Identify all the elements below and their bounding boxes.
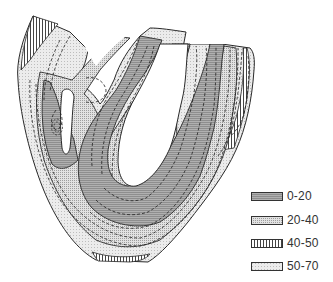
legend-label: 40-50 [287,237,319,250]
legend-item-20-40: 20-40 [251,214,333,226]
legend-label: 50-70 [287,260,319,273]
swatch-0-20 [251,192,283,201]
legend-item-40-50: 40-50 [251,237,333,249]
legend-item-0-20: 0-20 [251,190,333,202]
legend-item-50-70: 50-70 [251,260,333,272]
swatch-50-70 [251,262,283,271]
swatch-20-40 [251,216,283,225]
legend-label: 0-20 [287,190,312,203]
swatch-40-50 [251,239,283,248]
legend-label: 20-40 [287,214,319,227]
void-top-right [190,14,255,44]
